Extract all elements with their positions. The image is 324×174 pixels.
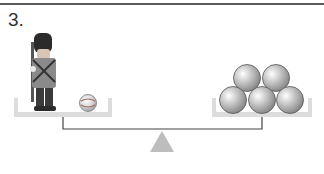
metal-ball-icon — [220, 87, 247, 114]
scale-beam — [63, 117, 262, 129]
metal-balls-stack — [220, 65, 304, 114]
metal-ball-icon — [277, 87, 304, 114]
balance-scale-worksheet: 3. — [0, 0, 324, 174]
marble-icon — [80, 95, 97, 112]
scale-illustration — [0, 0, 324, 174]
fulcrum-triangle — [150, 131, 174, 152]
left-pan — [14, 98, 112, 117]
metal-ball-icon — [249, 87, 276, 114]
toy-soldier-icon — [30, 33, 56, 111]
